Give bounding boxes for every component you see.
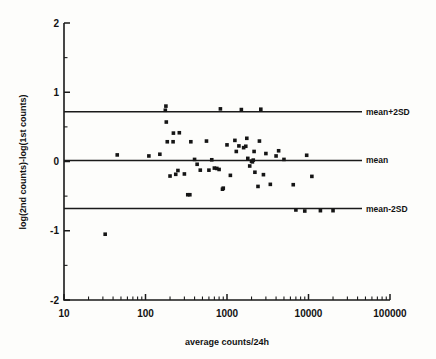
data-point	[319, 209, 323, 213]
data-point	[253, 170, 257, 174]
plot-axes	[64, 23, 390, 300]
data-point	[248, 164, 252, 168]
data-point	[294, 208, 298, 212]
data-point	[221, 186, 225, 190]
data-point	[310, 175, 314, 179]
x-tick-label: 10000	[295, 308, 323, 319]
data-point	[174, 173, 178, 177]
y-tick-label: -1	[50, 225, 59, 236]
data-point	[210, 158, 214, 162]
data-point	[251, 158, 255, 162]
data-point	[168, 174, 172, 178]
reference-label-mean: mean	[366, 155, 388, 165]
reference-label-mean-2SD: mean-2SD	[366, 204, 408, 214]
x-tick-label: 10	[58, 308, 70, 319]
x-tick-label: 100	[137, 308, 154, 319]
data-point	[205, 139, 209, 143]
data-point	[165, 120, 169, 124]
y-tick-label: 0	[53, 156, 59, 167]
series-agreement	[103, 104, 334, 236]
data-point	[277, 149, 281, 153]
data-point	[274, 154, 278, 158]
data-point	[178, 131, 182, 135]
data-point	[282, 158, 286, 162]
x-tick-label: 1000	[216, 308, 239, 319]
data-point	[303, 209, 307, 213]
data-point	[246, 157, 250, 161]
data-point	[234, 150, 238, 154]
data-point	[115, 153, 119, 157]
x-tick-label: 100000	[373, 308, 407, 319]
data-point	[240, 108, 244, 112]
data-point	[164, 108, 168, 112]
y-axis-title: log(2nd counts)-log(1st counts)	[18, 95, 28, 230]
data-point	[233, 139, 237, 143]
data-point	[259, 107, 263, 111]
data-point	[193, 158, 197, 162]
data-point	[237, 144, 241, 148]
data-point	[207, 168, 211, 172]
data-point	[195, 162, 199, 166]
y-tick-label: 2	[53, 18, 59, 29]
data-point	[244, 144, 248, 148]
data-point	[198, 168, 202, 172]
data-point	[172, 131, 176, 135]
data-point	[219, 107, 223, 111]
data-point	[256, 185, 260, 189]
data-point	[331, 209, 335, 213]
y-tick-label: 1	[53, 87, 59, 98]
data-point	[158, 152, 162, 156]
data-point	[103, 232, 107, 236]
scatter-plot-figure: 10100100010000100000210-1-2mean+2SDmeanm…	[0, 0, 436, 359]
data-point	[165, 140, 169, 144]
data-point	[291, 183, 295, 187]
data-point	[264, 152, 268, 156]
bland-altman-chart: 10100100010000100000210-1-2mean+2SDmeanm…	[0, 0, 436, 359]
x-axis-title: average counts/24h	[185, 337, 269, 347]
data-point	[188, 193, 192, 197]
data-point	[189, 140, 193, 144]
data-point	[258, 139, 262, 143]
data-point	[269, 183, 273, 187]
data-point	[164, 104, 168, 108]
reference-label-mean+2SD: mean+2SD	[366, 107, 410, 117]
y-tick-label: -2	[50, 295, 59, 306]
data-point	[176, 169, 180, 173]
data-point	[262, 173, 266, 177]
data-point	[245, 137, 249, 141]
data-point	[217, 168, 221, 172]
data-point	[225, 143, 229, 147]
data-point	[171, 140, 175, 144]
data-point	[305, 153, 309, 157]
data-point	[147, 154, 151, 158]
data-point	[229, 174, 233, 178]
data-point	[183, 172, 187, 176]
data-point	[252, 150, 256, 154]
